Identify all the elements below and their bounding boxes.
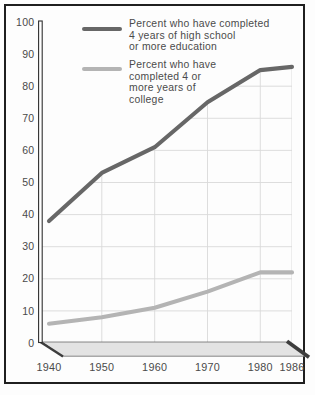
x-tick-label: 1970: [195, 361, 220, 373]
y-tick-label: 40: [22, 208, 34, 220]
legend-label-college: Percent who have completed 4 or more yea…: [129, 59, 216, 105]
y-tick-label: 100: [16, 16, 34, 28]
y-tick-label: 0: [28, 337, 34, 349]
legend-swatch-college: [82, 67, 122, 71]
x-tick-label: 1986: [279, 361, 304, 373]
y-tick-label: 80: [22, 80, 34, 92]
y-tick-label: 50: [22, 176, 34, 188]
legend-swatch-high-school: [82, 27, 122, 31]
x-tick-label: 1940: [36, 361, 61, 373]
y-tick-label: 20: [22, 272, 34, 284]
y-tick-label: 30: [22, 240, 34, 252]
y-tick-label: 70: [22, 112, 34, 124]
figure: 0102030405060708090100 19401950196019701…: [0, 0, 315, 395]
legend-label-high-school: Percent who have completed 4 years of hi…: [129, 18, 270, 53]
y-tick-label: 90: [22, 48, 34, 60]
x-axis-floor: [41, 341, 310, 357]
y-tick-label: 10: [22, 305, 34, 317]
y-tick-label: 60: [22, 144, 34, 156]
y-axis-column: [39, 21, 43, 343]
floor-top-face: [42, 342, 308, 356]
x-tick-label: 1960: [142, 361, 167, 373]
x-tick-label: 1950: [89, 361, 114, 373]
x-tick-label: 1980: [248, 361, 273, 373]
